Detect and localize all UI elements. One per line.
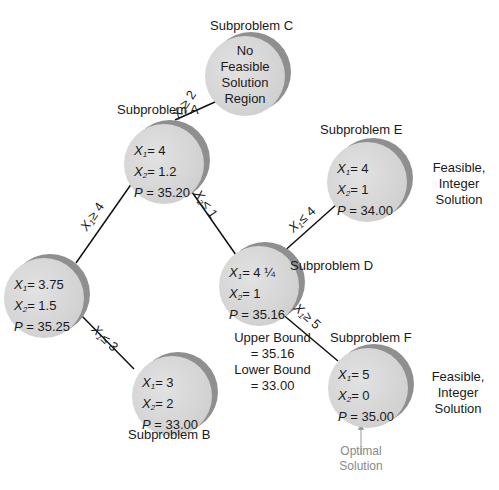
p-value: P = 35.16 bbox=[229, 306, 285, 323]
x2-value: X2= 1.2 bbox=[134, 163, 190, 184]
p-value: P = 35.20 bbox=[134, 184, 190, 201]
x1-value: X1= 3.75 bbox=[14, 276, 70, 297]
no-feasible-text: No Feasible Solution Region bbox=[205, 43, 285, 107]
x1-value: X1= 4 bbox=[337, 160, 393, 181]
x2-value: X2= 1.5 bbox=[14, 297, 70, 318]
x2-value: X2= 1 bbox=[337, 181, 393, 202]
bounds-text: Upper Bound = 35.16 Lower Bound = 33.00 bbox=[225, 330, 320, 394]
node-subproblem-b: X1= 3 X2= 2 P = 33.00 bbox=[132, 356, 212, 436]
node-subproblem-d: X1= 4 ¼ X2= 1 P = 35.16 bbox=[219, 246, 299, 326]
subproblem-f-title: Subproblem F bbox=[330, 330, 412, 345]
node-left-branch: X1= 3.75 X2= 1.5 P = 35.25 bbox=[4, 258, 84, 338]
subproblem-b-title: Subproblem B bbox=[128, 427, 210, 442]
x2-value: X2= 2 bbox=[142, 395, 198, 416]
x1-value: X1= 4 bbox=[134, 142, 190, 163]
node-e-note: Feasible, Integer Solution bbox=[414, 160, 499, 208]
node-subproblem-e: X1= 4 X2= 1 P = 34.00 bbox=[327, 142, 407, 222]
x1-value: X1= 4 ¼ bbox=[229, 264, 285, 285]
p-value: P = 34.00 bbox=[337, 202, 393, 219]
p-value: P = 35.25 bbox=[14, 318, 70, 335]
optimal-solution-label: Optimal Solution bbox=[330, 444, 392, 474]
node-subproblem-a: X1= 4 X2= 1.2 P = 35.20 bbox=[124, 124, 204, 204]
node-subproblem-f: X1= 5 X2= 0 P = 35.00 bbox=[328, 348, 408, 428]
x1-value: X1= 5 bbox=[338, 366, 394, 387]
node-subproblem-c: No Feasible Solution Region bbox=[205, 36, 285, 116]
p-value: P = 35.00 bbox=[338, 408, 394, 425]
x2-value: X2= 0 bbox=[338, 387, 394, 408]
subproblem-c-title: Subproblem C bbox=[210, 18, 293, 33]
x1-value: X1= 3 bbox=[142, 374, 198, 395]
subproblem-e-title: Subproblem E bbox=[320, 122, 402, 137]
node-f-note: Feasible, Integer Solution bbox=[413, 369, 499, 417]
x2-value: X2= 1 bbox=[229, 285, 285, 306]
subproblem-d-title: Subproblem D bbox=[290, 258, 373, 273]
